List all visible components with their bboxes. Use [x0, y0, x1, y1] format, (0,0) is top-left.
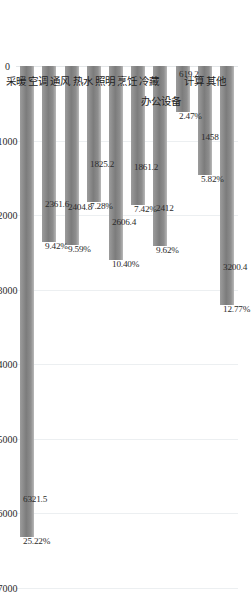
category-label: 空调	[28, 73, 48, 88]
plot: 12.77%3200.45.82%14582.47%619.29.62%2412…	[0, 0, 249, 611]
axis-tick-label: 0	[0, 61, 24, 72]
bar-value-label: 2606.4	[112, 217, 136, 227]
category-label: 其他	[205, 73, 225, 88]
bar-value-label: 2361.6	[45, 199, 69, 209]
bar-percent-label: 7.42%	[134, 204, 157, 214]
bar-percent-label: 25.22%	[23, 536, 50, 546]
category-label: 冷藏	[139, 73, 159, 88]
category-label: 烹饪	[117, 73, 137, 88]
bar-value-label: 3200.4	[223, 262, 247, 272]
category-label: 采暖	[6, 73, 26, 88]
bar-value-label: 2412	[156, 203, 174, 213]
bar[interactable]	[65, 66, 79, 245]
bar[interactable]	[42, 66, 56, 242]
bar-value-label: 1825.2	[90, 159, 114, 169]
category-label: 照明	[94, 73, 114, 88]
category-label: 计算	[183, 73, 203, 88]
axis-tick-label: 1000	[0, 135, 24, 146]
bar-value-label: 1861.2	[134, 162, 158, 172]
category-label: 通风	[50, 73, 70, 88]
axis-tick-label: 2000	[0, 210, 24, 221]
gridline	[16, 588, 238, 589]
bar-value-label: 2404.8	[68, 202, 92, 212]
bar-percent-label: 10.40%	[112, 259, 139, 269]
axis-tick-label: 4000	[0, 359, 24, 370]
gridline	[16, 290, 238, 291]
bar-percent-label: 9.62%	[156, 245, 179, 255]
plot-area: 12.77%3200.45.82%14582.47%619.29.62%2412…	[16, 66, 238, 588]
bar-percent-label: 9.59%	[68, 244, 91, 254]
gridline	[16, 513, 238, 514]
bar-percent-label: 5.82%	[201, 174, 224, 184]
axis-tick-label: 6000	[0, 508, 24, 519]
bar-value-label: 1458	[201, 132, 219, 142]
bar-chart: 12.77%3200.45.82%14582.47%619.29.62%2412…	[0, 0, 249, 611]
category-label: 热水	[72, 73, 92, 88]
axis-tick-label: 7000	[0, 583, 24, 594]
bar-percent-label: 2.47%	[179, 111, 202, 121]
bar-percent-label: 12.77%	[223, 304, 249, 314]
gridline	[16, 364, 238, 365]
bar-value-label: 6321.5	[23, 494, 47, 504]
category-label: 办公设备	[141, 93, 181, 108]
bar-percent-label: 9.42%	[45, 241, 68, 251]
axis-tick-label: 3000	[0, 284, 24, 295]
bar-percent-label: 7.28%	[90, 201, 113, 211]
gridline	[16, 439, 238, 440]
axis-tick-label: 5000	[0, 433, 24, 444]
